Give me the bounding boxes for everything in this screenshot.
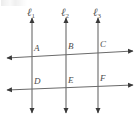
transversal-upper <box>7 51 133 58</box>
point-label-b: B <box>68 42 74 51</box>
point-label-a: A <box>34 44 40 53</box>
parallel-lines-group <box>32 18 98 113</box>
line-label-l3-subscript: 3 <box>98 12 102 20</box>
line-label-l2-subscript: 2 <box>66 12 70 20</box>
line-label-l2: ℓ2 <box>61 7 69 20</box>
line-label-l1-subscript: 1 <box>32 12 36 20</box>
line-label-l1: ℓ1 <box>27 7 35 20</box>
geometry-diagram-canvas <box>0 0 140 121</box>
point-label-e: E <box>68 76 74 85</box>
point-label-d: D <box>34 77 41 86</box>
point-label-f: F <box>100 74 106 83</box>
point-label-c: C <box>100 40 106 49</box>
transversal-lower <box>7 85 133 90</box>
line-label-l3: ℓ3 <box>93 7 101 20</box>
geometry-figure: ℓ1 ℓ2 ℓ3 A B C D E F <box>0 0 140 121</box>
